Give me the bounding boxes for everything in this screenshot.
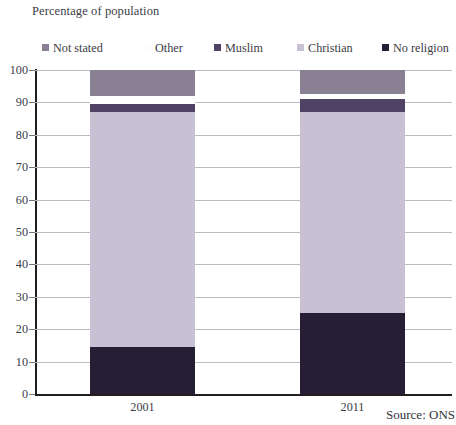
legend-label: Not stated bbox=[53, 40, 103, 56]
legend-item-christian[interactable]: Christian bbox=[297, 40, 353, 56]
legend-label: No religion bbox=[393, 40, 449, 56]
chart-title: Percentage of population bbox=[32, 4, 159, 19]
y-tick-label-0: 0 bbox=[2, 388, 28, 400]
legend-label: Muslim bbox=[225, 40, 263, 56]
legend-item-not-stated[interactable]: Not stated bbox=[42, 40, 103, 56]
legend-swatch-christian bbox=[297, 44, 304, 51]
y-tick-label-100: 100 bbox=[2, 64, 28, 76]
y-tick-label-60: 60 bbox=[2, 194, 28, 206]
bar-segment-2001-not-stated[interactable] bbox=[90, 70, 195, 96]
x-tick-label-2001: 2001 bbox=[90, 400, 195, 415]
y-tick-label-30: 30 bbox=[2, 291, 28, 303]
legend-label: Christian bbox=[308, 40, 353, 56]
legend-item-no-religion[interactable]: No religion bbox=[382, 40, 449, 56]
y-tick-label-50: 50 bbox=[2, 226, 28, 238]
bar-segment-2011-no-religion[interactable] bbox=[300, 313, 405, 394]
y-tick-label-10: 10 bbox=[2, 356, 28, 368]
y-tick-label-20: 20 bbox=[2, 323, 28, 335]
bar-segment-2011-not-stated[interactable] bbox=[300, 70, 405, 94]
bar-segment-2001-christian[interactable] bbox=[90, 112, 195, 347]
y-axis-tick-labels: 1009080706050403020100 bbox=[0, 0, 28, 425]
bar-2001[interactable] bbox=[90, 70, 195, 394]
chart-legend: Not statedOtherMuslimChristianNo religio… bbox=[42, 40, 452, 56]
legend-item-other[interactable]: Other bbox=[144, 40, 183, 56]
bar-segment-2001-no-religion[interactable] bbox=[90, 347, 195, 394]
chart-container: Percentage of population Not statedOther… bbox=[0, 0, 456, 425]
legend-item-muslim[interactable]: Muslim bbox=[214, 40, 263, 56]
y-tick-label-70: 70 bbox=[2, 161, 28, 173]
plot-area bbox=[35, 70, 452, 394]
legend-swatch-not-stated bbox=[42, 44, 49, 51]
gridline-0 bbox=[35, 394, 452, 396]
legend-swatch-muslim bbox=[214, 44, 221, 51]
legend-label: Other bbox=[155, 40, 183, 56]
legend-swatch-other bbox=[144, 44, 151, 51]
bar-segment-2001-other[interactable] bbox=[90, 96, 195, 104]
y-tick-label-40: 40 bbox=[2, 258, 28, 270]
y-tick-label-90: 90 bbox=[2, 96, 28, 108]
bar-segment-2011-christian[interactable] bbox=[300, 112, 405, 313]
bar-2011[interactable] bbox=[300, 70, 405, 394]
y-tick-label-80: 80 bbox=[2, 129, 28, 141]
bar-segment-2011-other[interactable] bbox=[300, 94, 405, 99]
bar-segment-2001-muslim[interactable] bbox=[90, 104, 195, 112]
bar-segment-2011-muslim[interactable] bbox=[300, 99, 405, 112]
legend-swatch-no-religion bbox=[382, 44, 389, 51]
source-note: Source: ONS bbox=[386, 407, 455, 423]
